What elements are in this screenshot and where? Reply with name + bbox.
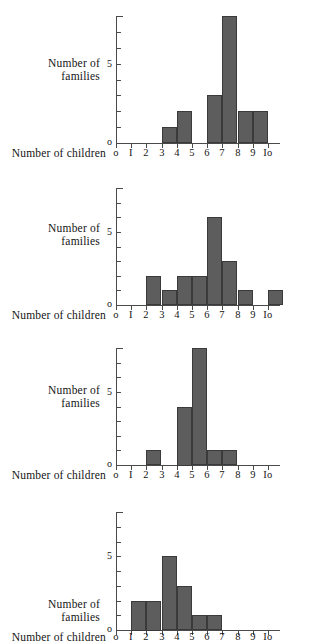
y-axis-tick — [117, 436, 121, 437]
x-tick-label-9: 9 — [245, 309, 261, 320]
x-tick-label-10: Io — [260, 469, 276, 480]
histogram-bar — [177, 111, 192, 143]
histogram-bar — [222, 16, 237, 143]
x-tick-label-1: I — [123, 309, 139, 320]
x-axis-line — [116, 305, 280, 306]
x-tick-label-6: 6 — [199, 469, 215, 480]
histogram-bar — [238, 290, 253, 305]
x-tick-label-0: o — [108, 469, 124, 480]
x-tick-label-5: 5 — [184, 309, 200, 320]
y-axis-label-line2: families — [4, 70, 100, 83]
histogram-bar — [192, 276, 207, 305]
histogram-bar — [268, 290, 283, 305]
x-tick-label-3: 3 — [154, 631, 170, 642]
y-axis-tick — [117, 407, 121, 408]
histogram-bar — [207, 615, 222, 630]
x-tick-label-8: 8 — [230, 309, 246, 320]
y-axis-tick — [117, 203, 121, 204]
x-tick-label-7: 7 — [214, 147, 230, 158]
histogram-bar — [162, 127, 177, 143]
x-tick-label-7: 7 — [214, 631, 230, 642]
x-axis-label: Number of children — [2, 309, 106, 322]
x-tick-label-8: 8 — [230, 147, 246, 158]
histogram-bar — [207, 95, 222, 143]
y-axis-tick — [117, 586, 121, 587]
x-tick-label-10: Io — [260, 309, 276, 320]
x-tick-label-6: 6 — [199, 147, 215, 158]
x-tick-label-3: 3 — [154, 309, 170, 320]
x-tick-label-8: 8 — [230, 631, 246, 642]
histogram-bar — [131, 601, 146, 631]
y-axis-label-line1: Number of — [4, 384, 100, 397]
x-tick-label-6: 6 — [199, 309, 215, 320]
y-axis-tick — [117, 232, 121, 233]
histogram-bar — [238, 111, 253, 143]
y-axis-tick — [117, 80, 121, 81]
histogram-bar — [146, 276, 161, 305]
x-tick-label-0: o — [108, 631, 124, 642]
y-axis-label-line2: families — [4, 397, 100, 410]
histogram-bar — [177, 407, 192, 466]
x-tick-label-5: 5 — [184, 147, 200, 158]
y-axis-tick — [117, 615, 121, 616]
x-tick-label-10: Io — [260, 631, 276, 642]
histogram-bar — [177, 276, 192, 305]
y-axis-tick — [117, 348, 123, 349]
x-tick-label-2: 2 — [138, 631, 154, 642]
y-axis-tick — [117, 527, 121, 528]
x-tick-label-0: o — [108, 309, 124, 320]
x-tick-label-9: 9 — [245, 631, 261, 642]
y-axis-tick — [117, 111, 121, 112]
x-tick-label-2: 2 — [138, 147, 154, 158]
y-axis-tick — [117, 290, 121, 291]
histogram-bar — [162, 556, 177, 630]
histogram-bar — [222, 261, 237, 305]
histogram-bar — [177, 586, 192, 630]
histogram-bar — [207, 450, 222, 465]
y-axis-tick — [117, 188, 123, 189]
x-tick-label-9: 9 — [245, 469, 261, 480]
x-tick-label-0: o — [108, 147, 124, 158]
y-axis-label-line1: Number of — [4, 222, 100, 235]
histogram-bar — [222, 450, 237, 465]
y-tick-label-5: 5 — [98, 226, 112, 237]
x-tick-label-4: 4 — [169, 147, 185, 158]
x-axis-line — [116, 465, 280, 466]
y-axis-tick — [117, 512, 123, 513]
x-tick-label-1: I — [123, 469, 139, 480]
y-tick-label-5: 5 — [98, 550, 112, 561]
x-tick-label-4: 4 — [169, 309, 185, 320]
y-axis-tick — [117, 276, 121, 277]
histogram-bar — [162, 290, 177, 305]
x-axis-label: Number of children — [2, 631, 106, 644]
y-axis-tick — [117, 542, 121, 543]
x-tick-label-1: I — [123, 147, 139, 158]
histogram-bar — [253, 111, 268, 143]
y-axis-tick — [117, 392, 121, 393]
histogram-bar — [207, 217, 222, 305]
y-axis-tick — [117, 48, 121, 49]
y-axis-tick — [117, 377, 121, 378]
y-tick-label-0: o — [98, 298, 112, 309]
y-axis-label: Number offamilies — [4, 57, 100, 83]
y-axis-tick — [117, 421, 121, 422]
x-axis-label: Number of children — [2, 147, 106, 160]
y-axis-label: Number offamilies — [4, 598, 100, 624]
y-axis-label-line1: Number of — [4, 57, 100, 70]
y-axis-tick — [117, 32, 121, 33]
x-tick-label-1: I — [123, 631, 139, 642]
y-axis-tick — [117, 571, 121, 572]
y-tick-label-5: 5 — [98, 386, 112, 397]
x-tick-label-5: 5 — [184, 631, 200, 642]
x-tick-label-3: 3 — [154, 147, 170, 158]
x-tick-label-2: 2 — [138, 309, 154, 320]
y-axis-tick — [117, 363, 121, 364]
x-axis-line — [116, 143, 280, 144]
x-tick-label-8: 8 — [230, 469, 246, 480]
x-tick-label-6: 6 — [199, 631, 215, 642]
y-axis-tick — [117, 16, 123, 17]
histogram-bar — [146, 601, 161, 631]
y-axis-label: Number offamilies — [4, 222, 100, 248]
y-axis-tick — [117, 556, 121, 557]
x-axis-label: Number of children — [2, 469, 106, 482]
